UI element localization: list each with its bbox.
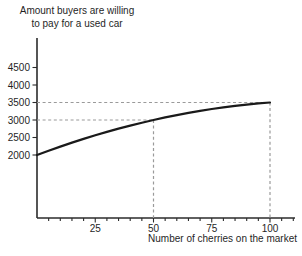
y-tick-label: 2000 (8, 150, 31, 161)
y-tick-label: 3000 (8, 115, 31, 126)
plot-area: 255075100200025003000350040004500 (8, 38, 295, 234)
y-tick-label: 3500 (8, 97, 31, 108)
x-tick-label: 25 (90, 223, 102, 234)
chart-svg: 255075100200025003000350040004500 (0, 0, 302, 256)
cherries-used-car-chart: Amount buyers are willing to pay for a u… (0, 0, 302, 256)
x-axis-label: Number of cherries on the market (148, 233, 297, 244)
y-tick-label: 2500 (8, 132, 31, 143)
y-tick-label: 4500 (8, 62, 31, 73)
willingness-to-pay-curve (37, 103, 270, 156)
y-tick-label: 4000 (8, 80, 31, 91)
